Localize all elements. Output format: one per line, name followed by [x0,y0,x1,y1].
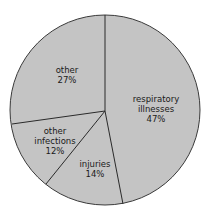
label-line: illnesses [138,104,175,114]
label-line: other [56,65,79,75]
label-percent: 27% [58,75,77,85]
label-line: respiratory [133,94,179,104]
label-percent: 12% [46,146,65,156]
label-percent: 14% [86,169,105,179]
pie-chart: respiratory illnesses 47% injuries 14% o… [0,0,210,222]
label-percent: 47% [147,114,166,124]
label-line: other [44,126,67,136]
label-line: injuries [79,159,111,169]
slice-label-other: other 27% [56,65,79,85]
label-line: infections [34,136,76,146]
